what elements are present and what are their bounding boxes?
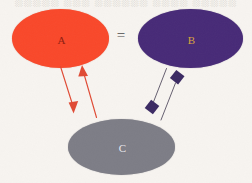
- diagram-canvas: ░░░░░ ░░░ ░░░░░░ ░░░░ ░░░░░ A = B C: [0, 0, 252, 183]
- connector-c-to-a-arrowhead: [78, 65, 88, 77]
- connector-b-to-c-line: [153, 69, 167, 105]
- connector-c-to-a-line: [84, 74, 97, 118]
- connector-layer: [0, 0, 252, 183]
- connector-b-to-c: [145, 69, 167, 115]
- connector-a-to-c: [61, 67, 79, 114]
- clipped-caption-glyphs: ░░░░░ ░░░ ░░░░░░ ░░░░ ░░░░░: [15, 0, 238, 6]
- clipped-caption-text: ░░░░░ ░░░ ░░░░░░ ░░░░ ░░░░░: [0, 0, 252, 7]
- connector-c-to-b: [161, 70, 184, 120]
- connector-a-to-c-line: [61, 67, 73, 105]
- connector-a-to-c-arrowhead: [69, 101, 79, 114]
- connector-c-to-a: [78, 65, 96, 118]
- connector-b-to-c-diamond: [145, 100, 160, 115]
- connector-c-to-b-line: [161, 83, 176, 120]
- connector-c-to-b-diamond: [170, 70, 185, 85]
